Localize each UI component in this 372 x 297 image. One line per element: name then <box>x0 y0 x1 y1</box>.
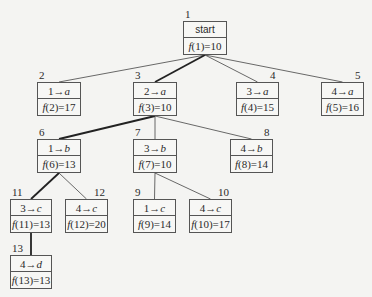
node-f-value: f(2)=17 <box>38 99 80 115</box>
node-move-label: 4→b <box>231 140 272 156</box>
node-number: 12 <box>94 187 105 198</box>
node-number: 5 <box>355 70 361 81</box>
node-box: 4→cf(12)=20 <box>65 199 108 233</box>
node-box: 2→af(3)=10 <box>133 82 177 116</box>
node-box: 4→af(5)=16 <box>321 82 364 116</box>
node-move-label: 1→c <box>134 200 175 216</box>
node-f-value: f(9)=14 <box>134 216 175 232</box>
node-box: 3→bf(7)=10 <box>133 139 177 173</box>
node-f-value: f(3)=10 <box>134 99 176 115</box>
node-f-value: f(8)=14 <box>231 156 272 172</box>
node-f-value: f(7)=10 <box>134 156 176 172</box>
edge-7-10 <box>155 173 211 199</box>
node-f-value: f(1)=10 <box>184 38 226 54</box>
node-move-label: 4→c <box>66 200 107 216</box>
node-number: 10 <box>218 187 229 198</box>
node-move-label: start <box>184 22 226 38</box>
node-number: 13 <box>12 243 23 254</box>
node-move-label: 3→c <box>11 200 51 216</box>
node-box: 4→df(13)=13 <box>10 255 52 289</box>
node-move-label: 3→b <box>134 140 176 156</box>
node-number: 3 <box>135 70 141 81</box>
node-number: 11 <box>12 187 23 198</box>
node-number: 8 <box>264 127 270 138</box>
node-box: 1→bf(6)=13 <box>37 139 81 173</box>
edge-7-9 <box>155 173 156 199</box>
node-box: startf(1)=10 <box>183 21 227 55</box>
node-number: 9 <box>135 187 141 198</box>
node-move-label: 1→b <box>38 140 80 156</box>
node-f-value: f(10)=17 <box>190 216 231 232</box>
node-move-label: 1→a <box>38 83 80 99</box>
edge-6-12 <box>59 173 87 199</box>
node-box: 3→af(4)=15 <box>236 82 279 116</box>
node-box: 4→cf(10)=17 <box>189 199 232 233</box>
node-box: 1→af(2)=17 <box>37 82 81 116</box>
node-box: 4→bf(8)=14 <box>230 139 273 173</box>
node-number: 1 <box>185 9 191 20</box>
node-move-label: 4→a <box>322 83 363 99</box>
node-number: 6 <box>39 127 45 138</box>
edge-3-8 <box>155 116 252 139</box>
node-f-value: f(11)=13 <box>11 216 51 232</box>
node-box: 1→cf(9)=14 <box>133 199 176 233</box>
node-box: 3→cf(11)=13 <box>10 199 52 233</box>
edge-1-4 <box>205 55 258 82</box>
node-move-label: 4→d <box>11 256 51 272</box>
node-number: 2 <box>39 70 45 81</box>
node-f-value: f(6)=13 <box>38 156 80 172</box>
node-f-value: f(5)=16 <box>322 99 363 115</box>
node-move-label: 3→a <box>237 83 278 99</box>
node-f-value: f(13)=13 <box>11 272 51 288</box>
node-f-value: f(12)=20 <box>66 216 107 232</box>
node-move-label: 4→c <box>190 200 231 216</box>
edge-6-11 <box>31 173 59 199</box>
node-f-value: f(4)=15 <box>237 99 278 115</box>
edge-1-2 <box>59 55 205 82</box>
node-number: 7 <box>135 127 141 138</box>
node-move-label: 2→a <box>134 83 176 99</box>
node-number: 4 <box>270 70 276 81</box>
edge-1-3 <box>155 55 205 82</box>
